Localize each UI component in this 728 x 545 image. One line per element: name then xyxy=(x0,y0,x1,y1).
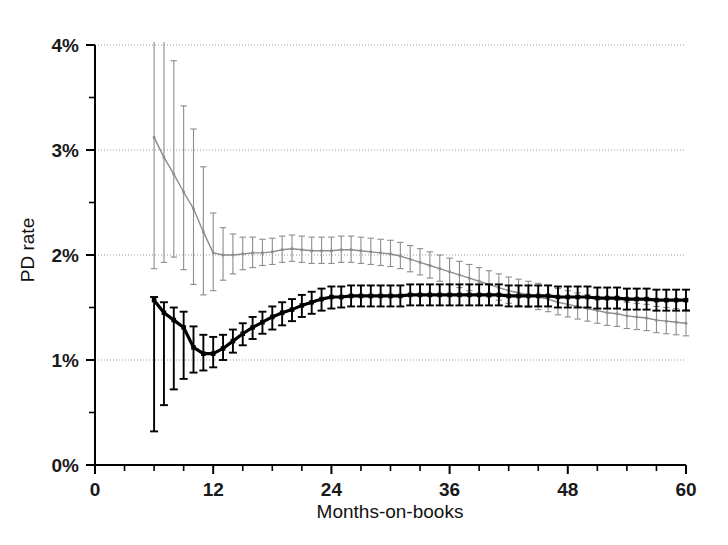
data-point-marker xyxy=(634,297,639,302)
data-point-marker xyxy=(448,271,451,274)
data-point-marker xyxy=(585,295,590,300)
y-axis-title: PD rate xyxy=(17,218,38,282)
data-point-marker xyxy=(665,320,668,323)
data-point-marker xyxy=(201,351,206,356)
data-point-marker xyxy=(330,250,333,253)
data-point-marker xyxy=(437,293,442,298)
data-point-marker xyxy=(319,297,324,302)
data-point-marker xyxy=(370,251,373,254)
data-point-marker xyxy=(605,296,610,301)
data-point-marker xyxy=(309,300,314,305)
data-point-marker xyxy=(674,298,679,303)
data-point-marker xyxy=(310,250,313,253)
y-tick-label-1: 1% xyxy=(52,350,80,371)
data-point-marker xyxy=(339,295,344,300)
y-tick-label-2: 2% xyxy=(52,245,80,266)
data-point-marker xyxy=(300,303,305,308)
data-point-marker xyxy=(625,297,630,302)
data-point-marker xyxy=(271,251,274,254)
data-point-marker xyxy=(291,247,294,250)
data-point-marker xyxy=(202,231,205,234)
data-point-marker xyxy=(359,294,364,299)
x-tick-label-1: 12 xyxy=(203,479,224,500)
data-point-marker xyxy=(388,294,393,299)
data-point-marker xyxy=(211,351,216,356)
data-point-marker xyxy=(409,258,412,261)
data-point-marker xyxy=(221,346,226,351)
x-axis-title: Months-on-books xyxy=(317,501,464,522)
data-point-marker xyxy=(418,293,423,298)
data-point-marker xyxy=(675,321,678,324)
data-point-marker xyxy=(398,294,403,299)
data-point-marker xyxy=(181,325,186,330)
data-point-marker xyxy=(566,295,571,300)
data-point-marker xyxy=(468,277,471,280)
data-point-marker xyxy=(556,295,561,300)
data-point-marker xyxy=(192,208,195,211)
data-point-marker xyxy=(350,248,353,251)
x-tick-label-5: 60 xyxy=(675,479,696,500)
data-point-marker xyxy=(329,295,334,300)
data-point-marker xyxy=(261,252,264,255)
data-point-marker xyxy=(429,264,432,267)
data-point-marker xyxy=(536,294,541,299)
chart-background xyxy=(0,0,728,545)
data-point-marker xyxy=(457,293,462,298)
data-point-marker xyxy=(173,173,176,176)
data-point-marker xyxy=(626,315,629,318)
data-point-marker xyxy=(478,280,481,283)
data-point-marker xyxy=(516,294,521,299)
x-tick-label-0: 0 xyxy=(90,479,101,500)
data-point-marker xyxy=(458,274,461,277)
x-tick-label-3: 36 xyxy=(439,479,460,500)
data-point-marker xyxy=(378,294,383,299)
data-point-marker xyxy=(301,248,304,251)
data-point-marker xyxy=(251,252,254,255)
data-point-marker xyxy=(428,293,433,298)
data-point-marker xyxy=(419,261,422,264)
data-point-marker xyxy=(596,309,599,312)
data-point-marker xyxy=(438,267,441,270)
data-point-marker xyxy=(231,339,236,344)
data-point-marker xyxy=(497,293,502,298)
data-point-marker xyxy=(360,250,363,253)
data-point-marker xyxy=(162,310,167,315)
data-point-marker xyxy=(191,345,196,350)
data-point-marker xyxy=(546,294,551,299)
data-point-marker xyxy=(369,294,374,299)
data-point-marker xyxy=(172,318,177,323)
data-point-marker xyxy=(163,156,166,159)
data-point-marker xyxy=(241,253,244,256)
data-point-marker xyxy=(467,293,472,298)
data-point-marker xyxy=(290,307,295,312)
data-point-marker xyxy=(389,253,392,256)
y-tick-label-0: 0% xyxy=(52,455,80,476)
data-point-marker xyxy=(250,325,255,330)
data-point-marker xyxy=(447,293,452,298)
data-point-marker xyxy=(379,252,382,255)
data-point-marker xyxy=(606,311,609,314)
data-point-marker xyxy=(270,315,275,320)
data-point-marker xyxy=(575,295,580,300)
data-point-marker xyxy=(684,298,689,303)
data-point-marker xyxy=(685,322,688,325)
data-point-marker xyxy=(526,294,531,299)
data-point-marker xyxy=(349,294,354,299)
data-point-marker xyxy=(222,254,225,257)
data-point-marker xyxy=(320,250,323,253)
data-point-marker xyxy=(664,298,669,303)
data-point-marker xyxy=(152,298,157,303)
pd-rate-line-chart: 0%1%2%3%4% 01224364860 Months-on-books P… xyxy=(0,0,728,545)
y-tick-label-3: 3% xyxy=(52,140,80,161)
data-point-marker xyxy=(635,316,638,319)
data-point-marker xyxy=(232,254,235,257)
data-point-marker xyxy=(260,320,265,325)
x-tick-label-2: 24 xyxy=(321,479,343,500)
data-point-marker xyxy=(506,294,511,299)
data-point-marker xyxy=(399,255,402,258)
chart-figure: 0%1%2%3%4% 01224364860 Months-on-books P… xyxy=(0,0,728,545)
data-point-marker xyxy=(644,297,649,302)
data-point-marker xyxy=(340,248,343,251)
data-point-marker xyxy=(153,136,156,139)
data-point-marker xyxy=(595,296,600,301)
